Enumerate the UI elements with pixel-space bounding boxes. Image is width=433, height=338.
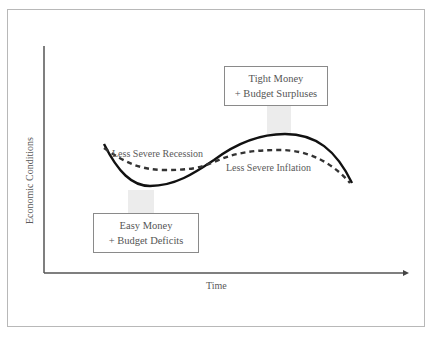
policy-arrow-up-lower bbox=[128, 190, 154, 214]
tight-money-line2: + Budget Surpluses bbox=[225, 86, 327, 101]
easy-money-line1: Easy Money bbox=[94, 218, 198, 233]
recession-label: Less Severe Recession bbox=[112, 148, 203, 159]
inflation-label: Less Severe Inflation bbox=[226, 162, 311, 173]
policy-arrow-down-upper bbox=[267, 104, 291, 134]
x-axis-arrowhead-icon bbox=[403, 270, 409, 276]
x-axis-label: Time bbox=[206, 280, 227, 291]
tight-money-box: Tight Money + Budget Surpluses bbox=[224, 66, 328, 106]
easy-money-box: Easy Money + Budget Deficits bbox=[93, 213, 199, 253]
y-axis-label: Economic Conditions bbox=[24, 131, 35, 231]
tight-money-line1: Tight Money bbox=[225, 71, 327, 86]
easy-money-line2: + Budget Deficits bbox=[94, 233, 198, 248]
solid-cycle-curve bbox=[104, 134, 352, 186]
